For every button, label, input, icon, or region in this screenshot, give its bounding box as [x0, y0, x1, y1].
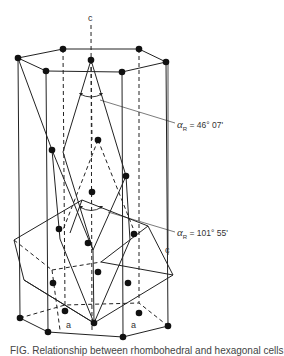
atoms: [15, 46, 172, 341]
c-axis-label-right: c: [165, 245, 170, 255]
figure-caption: FIG. Relationship between rhombohedral a…: [10, 345, 284, 356]
a-axis-label-right: a: [131, 320, 136, 330]
a-axis-label-left: a: [66, 320, 71, 330]
obtuse-angle-label: αR = 101° 55': [177, 226, 228, 240]
c-axis-label-top: c: [88, 13, 93, 23]
acute-angle-label: αR = 46° 07': [177, 118, 223, 132]
